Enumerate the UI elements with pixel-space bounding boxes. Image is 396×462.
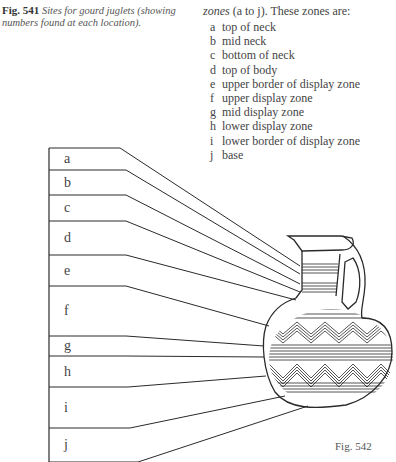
neck-bands [302,264,338,292]
leader-line [49,221,300,292]
leader-line [49,195,300,284]
zone-box-letter: j [63,437,68,452]
zigzag-line [255,367,395,381]
zone-box-letter: h [64,364,71,379]
leader-line [49,396,285,428]
zigzag-line [255,331,395,343]
zone-box-letter: i [64,400,68,415]
leader-line [49,336,264,346]
zone-box-letter: e [64,263,70,278]
zone-letters: abcdefghij [63,151,71,452]
leader-lines [49,148,308,462]
juglet-neck [296,251,340,298]
zone-box-letter: b [64,175,71,190]
leader-line [49,376,266,387]
zone-box-letter: f [64,303,69,318]
zigzag-line [255,364,395,378]
zone-box-letter: a [64,151,71,166]
zigzag-line [255,370,395,384]
zigzag-bands [255,322,395,387]
zigzag-line [255,328,395,340]
zone-box-letter: d [64,230,71,245]
leader-line [49,170,300,274]
leader-line [49,406,308,462]
leader-line [49,148,300,266]
zone-box-letter: g [64,338,71,353]
leader-line [49,356,264,357]
zigzag-line [255,373,395,387]
leader-line [49,255,296,300]
juglet-body [263,298,392,407]
juglet-zone-diagram: abcdefghij Fig. 542 [0,0,396,462]
juglet-handle-inner [342,258,360,309]
leader-line [49,286,269,326]
zone-box-letter: c [64,200,70,215]
figure-542-label: Fig. 542 [335,440,372,452]
juglet-drawing [255,236,396,407]
juglet-rim [288,236,353,251]
